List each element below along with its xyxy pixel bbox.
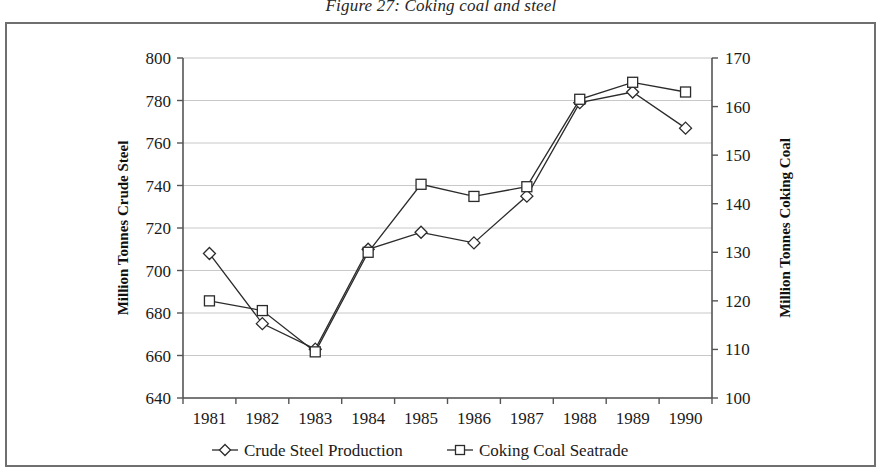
- legend-label: Crude Steel Production: [244, 441, 403, 460]
- y-axis-right-tick-label: 130: [725, 243, 751, 262]
- square-marker: [681, 87, 691, 97]
- y-axis-right-tick-label: 140: [725, 195, 751, 214]
- legend-label: Coking Coal Seatrade: [479, 441, 628, 460]
- line-chart: 6406606807007207407607808001001101201301…: [0, 0, 882, 475]
- square-marker: [575, 94, 585, 104]
- square-marker: [310, 347, 320, 357]
- x-axis-tick-label: 1989: [616, 409, 650, 428]
- y-axis-right-tick-label: 110: [725, 340, 750, 359]
- y-axis-right-tick-label: 160: [725, 98, 751, 117]
- square-marker: [416, 179, 426, 189]
- square-marker: [469, 191, 479, 201]
- y-axis-left-tick-label: 700: [146, 262, 172, 281]
- diamond-marker: [680, 122, 692, 134]
- y-axis-right-tick-label: 150: [725, 146, 751, 165]
- square-marker: [363, 247, 373, 257]
- x-axis-tick-label: 1981: [192, 409, 226, 428]
- diamond-marker: [220, 445, 231, 456]
- series-1: [203, 86, 691, 355]
- x-axis-tick-label: 1990: [669, 409, 703, 428]
- y-axis-left-tick-label: 680: [146, 304, 172, 323]
- square-marker: [257, 306, 267, 316]
- x-axis-tick-label: 1988: [563, 409, 597, 428]
- y-axis-left-tick-label: 760: [146, 134, 172, 153]
- y-axis-left-tick-label: 740: [146, 177, 172, 196]
- y-axis-left-tick-label: 640: [146, 389, 172, 408]
- y-axis-right-tick-label: 120: [725, 292, 751, 311]
- chart-legend: Crude Steel ProductionCoking Coal Seatra…: [212, 441, 628, 460]
- x-axis-tick-label: 1983: [298, 409, 332, 428]
- y-axis-left-tick-label: 780: [146, 92, 172, 111]
- x-axis-tick-label: 1986: [457, 409, 491, 428]
- y-axis-right-tick-label: 100: [725, 389, 751, 408]
- square-marker: [204, 296, 214, 306]
- square-marker: [628, 77, 638, 87]
- y-axis-left-title: Million Tonnes Crude Steel: [115, 141, 131, 316]
- square-marker: [522, 182, 532, 192]
- y-axis-left-tick-label: 720: [146, 219, 172, 238]
- y-axis-left-tick-label: 800: [146, 49, 172, 68]
- chart-canvas: 6406606807007207407607808001001101201301…: [0, 0, 882, 475]
- square-marker: [456, 446, 465, 455]
- x-axis-tick-label: 1985: [404, 409, 438, 428]
- x-axis-tick-label: 1982: [245, 409, 279, 428]
- y-axis-right-title: Million Tonnes Coking Coal: [777, 138, 793, 318]
- diamond-marker: [203, 248, 215, 260]
- x-axis-tick-label: 1987: [510, 409, 545, 428]
- series-line-diamond: [209, 92, 685, 349]
- diamond-marker: [256, 318, 268, 330]
- y-axis-left-tick-label: 660: [146, 347, 172, 366]
- y-axis-right-tick-label: 170: [725, 49, 751, 68]
- series-line-square: [209, 82, 685, 352]
- series-2: [204, 77, 690, 357]
- x-axis-tick-label: 1984: [351, 409, 386, 428]
